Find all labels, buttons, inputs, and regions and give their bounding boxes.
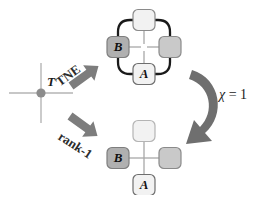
node-b[interactable]: [107, 148, 129, 169]
figure-canvas: T TNE rank-1 χ = 1 B A B A: [0, 0, 268, 203]
node-right[interactable]: [159, 148, 181, 169]
node-a[interactable]: [133, 64, 155, 85]
node-top[interactable]: [133, 121, 155, 142]
chi-label: χ = 1: [219, 87, 247, 103]
node-top[interactable]: [133, 10, 155, 31]
node-right[interactable]: [159, 37, 181, 58]
chi-equation-rest: = 1: [225, 87, 247, 102]
node-b[interactable]: [107, 37, 129, 58]
bottom-margin: [0, 195, 268, 203]
node-a[interactable]: [133, 175, 155, 196]
